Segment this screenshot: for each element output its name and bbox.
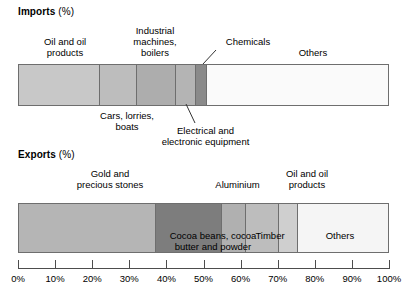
axis-tick-40 [166, 260, 167, 269]
axis-tick-label-60: 60% [231, 273, 250, 284]
axis-tick-80 [315, 260, 316, 269]
exports-label-gold: Gold and precious stones [35, 168, 185, 190]
axis-tick-0 [18, 260, 19, 269]
axis-tick-70 [278, 260, 279, 269]
imports-segment-chemicals[interactable] [196, 65, 207, 105]
axis-tick-30 [129, 260, 130, 269]
imports-segment-electrical[interactable] [176, 65, 196, 105]
axis-tick-label-100: 100% [377, 273, 401, 284]
percentage-axis: 0%10%20%30%40%50%60%70%80%90%100% [0, 256, 406, 294]
exports-title-unit: (%) [59, 149, 75, 160]
axis-tick-label-70: 70% [268, 273, 287, 284]
axis-tick-60 [241, 260, 242, 269]
exports-label-timber: Timber [240, 230, 300, 241]
imports-label-electrical: Electrical and electronic equipment [133, 125, 278, 147]
axis-tick-label-10: 10% [46, 273, 65, 284]
imports-chart-panel: Imports (%) Oil and oil products Industr… [0, 0, 406, 146]
axis-tick-10 [55, 260, 56, 269]
exports-title: Exports (%) [18, 149, 75, 160]
imports-label-chemicals: Chemicals [208, 36, 288, 47]
axis-tick-90 [352, 260, 353, 269]
imports-title-unit: (%) [58, 6, 74, 17]
axis-tick-label-50: 50% [194, 273, 213, 284]
axis-tick-20 [92, 260, 93, 269]
axis-tick-label-40: 40% [157, 273, 176, 284]
imports-stacked-bar [18, 64, 389, 106]
axis-tick-label-90: 90% [342, 273, 361, 284]
imports-segment-oil[interactable] [19, 65, 100, 105]
imports-title-text: Imports [18, 6, 55, 17]
imports-label-oil: Oil and oil products [10, 36, 120, 58]
axis-tick-label-0: 0% [11, 273, 25, 284]
axis-tick-label-30: 30% [120, 273, 139, 284]
axis-tick-label-20: 20% [83, 273, 102, 284]
exports-segment-others[interactable] [298, 204, 388, 252]
imports-segment-industrial[interactable] [137, 65, 176, 105]
axis-tick-label-80: 80% [305, 273, 324, 284]
imports-segment-cars[interactable] [100, 65, 137, 105]
imports-segment-others[interactable] [207, 65, 388, 105]
imports-title: Imports (%) [18, 6, 74, 17]
axis-tick-100 [389, 260, 390, 269]
exports-label-oil: Oil and oil products [267, 168, 347, 190]
imports-label-others: Others [268, 47, 358, 58]
exports-title-text: Exports [18, 149, 56, 160]
imports-label-industrial: Industrial machines, boilers [110, 25, 200, 58]
exports-label-others: Others [310, 230, 370, 241]
axis-tick-50 [204, 260, 205, 269]
